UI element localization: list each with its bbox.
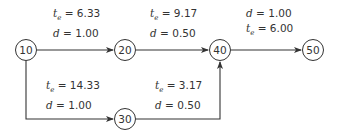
edge-label-30-40: te = 3.17 d = 0.50 <box>155 78 202 113</box>
node-50: 50 <box>302 39 324 61</box>
edge-label-40-50: d = 1.00 te = 6.00 <box>246 6 293 41</box>
node-label: 40 <box>213 44 226 56</box>
node-label: 50 <box>306 44 319 56</box>
node-label: 20 <box>118 44 131 56</box>
edge-label-20-40: te = 9.17 d = 0.50 <box>150 6 197 41</box>
node-label: 30 <box>118 113 131 125</box>
node-10: 10 <box>15 39 37 61</box>
node-30: 30 <box>114 108 136 130</box>
edge-label-10-30: te = 14.33 d = 1.00 <box>46 78 100 113</box>
node-40: 40 <box>209 39 231 61</box>
node-label: 10 <box>19 44 32 56</box>
node-20: 20 <box>114 39 136 61</box>
edge-label-10-20: te = 6.33 d = 1.00 <box>53 6 100 41</box>
